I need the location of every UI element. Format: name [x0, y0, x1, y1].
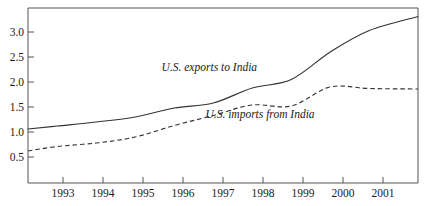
x-tick-label-2001: 2001: [372, 187, 395, 199]
x-axis-labels: 1993 1994 1995 1996 1997 1998 1999 2000 …: [52, 187, 395, 199]
x-tick-label-1996: 1996: [172, 187, 195, 199]
plot-frame: [28, 8, 418, 183]
x-tick-label-1994: 1994: [92, 187, 115, 199]
y-tick-label-0-5: 0.5: [10, 151, 25, 163]
y-tick-label-2-0: 2.0: [10, 76, 25, 88]
y-tick-label-1-5: 1.5: [10, 101, 25, 113]
x-tick-label-1997: 1997: [212, 187, 235, 199]
x-axis-ticks: [63, 177, 383, 183]
line-chart: 3.0 2.5 2.0 1.5 1.0 0.5 1993 1994 1995 1…: [0, 0, 424, 206]
y-axis-ticks: [28, 32, 34, 157]
x-tick-label-1993: 1993: [52, 187, 75, 199]
series-annotation-imports: U.S. imports from India: [205, 108, 314, 121]
y-tick-label-1-0: 1.0: [10, 126, 25, 138]
x-tick-label-1995: 1995: [132, 187, 155, 199]
y-tick-label-3-0: 3.0: [10, 26, 25, 38]
series-annotation-exports: U.S. exports to India: [162, 61, 258, 74]
y-tick-label-2-5: 2.5: [10, 51, 25, 63]
x-tick-label-2000: 2000: [332, 187, 355, 199]
chart-container: 3.0 2.5 2.0 1.5 1.0 0.5 1993 1994 1995 1…: [0, 0, 424, 206]
x-tick-label-1999: 1999: [292, 187, 315, 199]
y-axis-labels: 3.0 2.5 2.0 1.5 1.0 0.5: [10, 26, 25, 163]
x-tick-label-1998: 1998: [252, 187, 275, 199]
